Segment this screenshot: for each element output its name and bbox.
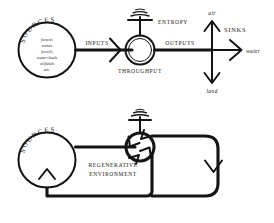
diagram-top-linear: SOURCES forests mines fossils watersheds… [19,9,261,94]
sources-circle-outline-bottom [19,133,76,188]
sources-list-item: mines [42,43,53,48]
regenerative-label-line-2: ENVIRONMENT [89,171,137,177]
sink-air-label: air [208,10,216,16]
top-sources-list: forests mines fossils watersheds oilfiel… [37,37,58,72]
entropy-arc-2 [133,12,147,13]
sources-list-item: forests [41,37,53,42]
sketch-canvas: SOURCES forests mines fossils watersheds… [0,0,274,223]
diagram-bottom-regenerative: SOURCES [19,109,223,196]
entropy-arc-3 [136,9,145,10]
entropy-arc-bottom-2 [134,112,147,113]
bottom-sources-arc-label: SOURCES [19,126,56,154]
regenerative-label-line-1: REGENERATIVE [88,162,137,168]
return-arrowhead-into-sources [39,169,55,179]
entropy-label: ENTROPY [158,19,188,25]
entropy-arc-bottom-1 [132,115,149,116]
sources-list-item: watersheds [37,55,58,60]
sinks-label: SINKS [224,26,246,33]
inputs-label: INPUTS [85,40,108,46]
entropy-arc-bottom-3 [136,109,144,110]
entropy-arc-1 [131,15,149,16]
regenerative-hub [126,130,154,164]
sources-list-item: fossils [41,49,53,54]
sink-water-label: water [246,48,261,54]
throughput-label: THROUGHPUT [118,68,162,74]
top-entropy-symbol [128,9,152,36]
outputs-label: OUTPUTS [165,40,194,46]
diagram-svg: SOURCES forests mines fossils watersheds… [0,0,274,223]
sources-list-item: etc. [44,67,50,72]
sources-list-item: oilfields [40,61,55,66]
bottom-entropy-symbol [129,109,151,133]
bottom-sources-circle: SOURCES [19,126,76,188]
sink-land-label: land [206,88,217,94]
